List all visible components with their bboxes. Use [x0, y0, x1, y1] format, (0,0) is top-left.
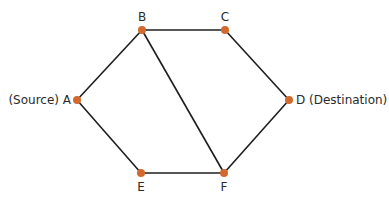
- node-label-b: B: [138, 10, 146, 24]
- node-c: [221, 26, 229, 34]
- node-label-d: D (Destination): [296, 93, 387, 107]
- node-b: [138, 26, 146, 34]
- edge-d-f: [224, 100, 289, 173]
- node-d: [285, 96, 293, 104]
- node-label-e: E: [137, 180, 145, 194]
- node-label-a: (Source) A: [8, 93, 71, 107]
- node-label-c: C: [221, 10, 229, 24]
- edge-e-a: [77, 100, 141, 173]
- edge-b-f: [142, 30, 224, 173]
- edges-group: [77, 30, 289, 173]
- edge-c-d: [225, 30, 289, 100]
- network-graph: (Source) ABCD (Destination)EF: [0, 0, 389, 197]
- edge-a-b: [77, 30, 142, 100]
- node-label-f: F: [221, 180, 228, 194]
- node-a: [73, 96, 81, 104]
- node-e: [137, 169, 145, 177]
- labels-group: (Source) ABCD (Destination)EF: [8, 10, 387, 194]
- node-f: [220, 169, 228, 177]
